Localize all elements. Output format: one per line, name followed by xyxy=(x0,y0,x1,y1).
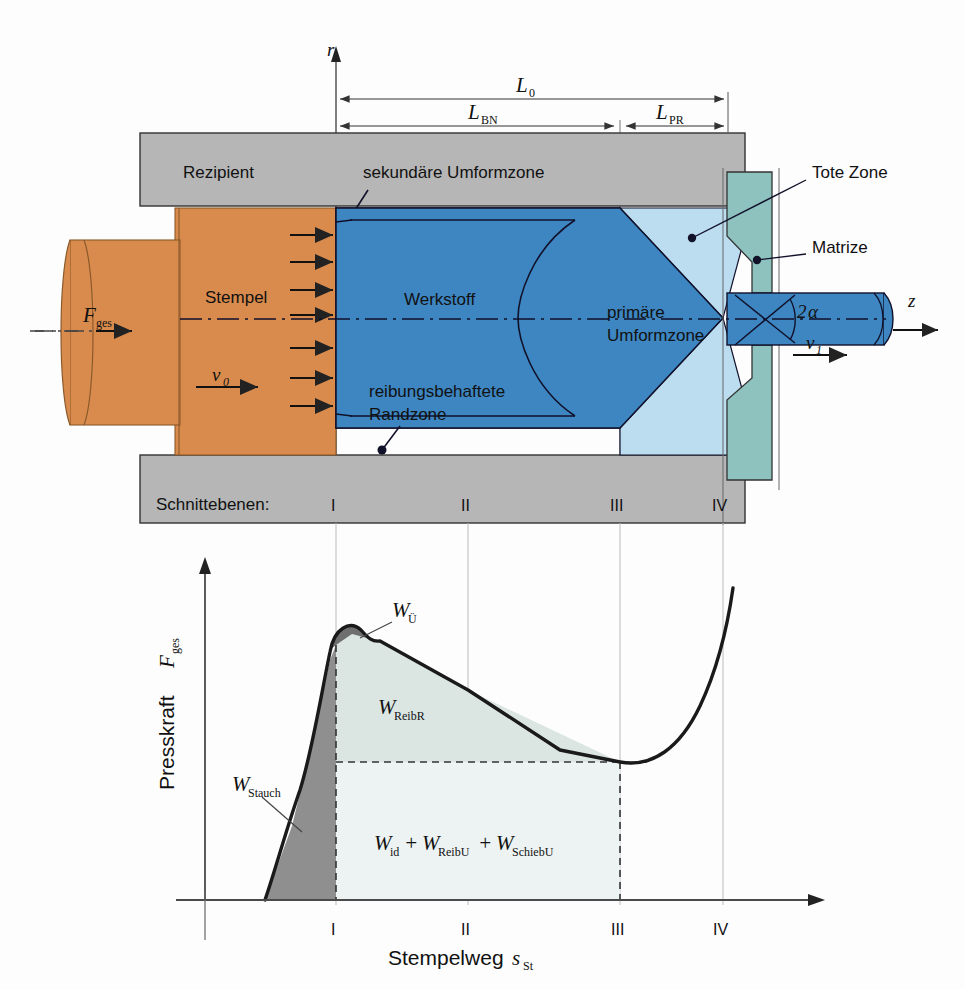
chart-xlabel-sub: St xyxy=(523,959,534,973)
label-op2: + xyxy=(478,831,492,855)
label-op1: + xyxy=(404,831,418,855)
section-plane-III-top: III xyxy=(610,497,623,514)
velocity-v1-sub: 1 xyxy=(816,343,822,357)
label-sekundaere-umformzone: sekundäre Umformzone xyxy=(363,163,544,182)
dimension-LBN-base: L xyxy=(467,100,480,124)
chart-ylabel-var: F xyxy=(155,655,179,669)
label-WStauch-sub: Stauch xyxy=(248,786,281,800)
label-WSchiebU-sub: SchiebU xyxy=(512,845,554,859)
dimension-LPR-sub: PR xyxy=(669,113,684,127)
label-WU-sub: Ü xyxy=(408,612,417,626)
dimension-LBN: L BN xyxy=(340,100,614,127)
section-plane-IV-top: IV xyxy=(712,497,727,514)
dimension-LBN-sub: BN xyxy=(481,113,498,127)
axis-r-label: r xyxy=(327,39,335,60)
chart-xlabel-base: Stempelweg xyxy=(388,946,504,969)
chart-xtick-III: III xyxy=(611,921,624,938)
leader-randzone xyxy=(382,426,400,450)
chart-ylabel-sub: ges xyxy=(168,638,182,654)
label-WReibR-sub: ReibR xyxy=(394,709,425,723)
chart-xtick-II: II xyxy=(461,921,470,938)
label-WReibU-sub: ReibU xyxy=(438,845,470,859)
force-Fges-base: F xyxy=(82,303,96,327)
label-rezipient: Rezipient xyxy=(183,163,254,182)
label-primaere-2: Umformzone xyxy=(607,326,704,345)
label-stempel: Stempel xyxy=(205,288,267,307)
dimension-L0-base: L xyxy=(515,73,528,97)
section-plane-II-top: II xyxy=(461,497,470,514)
section-plane-I-top: I xyxy=(331,497,335,514)
velocity-v0-sub: 0 xyxy=(223,375,229,389)
velocity-v0-base: v xyxy=(212,364,221,385)
chart-xtick-IV: IV xyxy=(713,921,728,938)
axis-z: z xyxy=(893,290,938,330)
chart-ylabel-base: Presskraft xyxy=(155,695,178,790)
dimension-L0-sub: 0 xyxy=(529,86,535,100)
label-randzone-2: Randzone xyxy=(369,405,447,424)
label-tote-zone: Tote Zone xyxy=(812,163,888,182)
dimension-LPR-base: L xyxy=(655,100,668,124)
axis-z-label: z xyxy=(907,290,916,311)
label-werkstoff: Werkstoff xyxy=(404,290,475,309)
chart-xlabel: Stempelweg s St xyxy=(388,946,534,973)
extrusion-figure: r L 0 L BN L PR Rezipient sekundäre Umfo… xyxy=(0,0,965,989)
label-randzone-1: reibungsbehaftete xyxy=(369,382,505,401)
figure-root: r L 0 L BN L PR Rezipient sekundäre Umfo… xyxy=(0,0,965,989)
chart-ylabel: Presskraft F ges xyxy=(155,638,182,790)
label-Wid-sub: id xyxy=(390,845,399,859)
chart-xtick-I: I xyxy=(331,921,335,938)
label-matrize: Matrize xyxy=(812,238,868,257)
label-schnittebenen: Schnittebenen: xyxy=(156,495,269,514)
velocity-v1-base: v xyxy=(806,332,815,353)
force-Fges-sub: ges xyxy=(96,316,112,330)
die-matrize xyxy=(723,168,779,525)
chart-xlabel-var: s xyxy=(512,946,520,970)
